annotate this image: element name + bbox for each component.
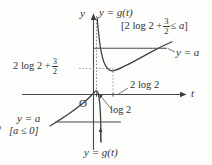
t-tick-label-log2: log 2 (110, 105, 131, 116)
condition-upper-bracket-close: ] (184, 20, 188, 31)
y-tick-denominator: 2 (52, 66, 58, 76)
condition-upper-relation: ≤ a (171, 20, 185, 31)
leader-line-y-a-upper (168, 49, 175, 52)
condition-upper-fraction: 3 2 (163, 17, 169, 35)
leader-line-y-a-lower (57, 110, 75, 121)
line-label-y-a-upper: y = a (176, 47, 199, 58)
origin-label: O (79, 98, 87, 109)
math-figure: y t O y = g(t) y = g(t) y = a y = a [a ≤… (0, 0, 212, 165)
curve-label-bottom: y = g(t) (84, 147, 118, 158)
condition-upper-numerator: 3 (163, 17, 169, 26)
condition-upper: [2 log 2 + 3 2 ≤ a] (121, 17, 188, 35)
page-bleed-artifact: ▪ (0, 121, 2, 134)
y-tick-label: 2 log 2 + 3 2 (13, 57, 59, 75)
t-tick-label-two-log2: 2 log 2 (130, 80, 159, 91)
line-label-y-a-lower: y = a (17, 113, 40, 124)
axis-label-t: t (191, 88, 194, 99)
y-tick-term: 2 log 2 + (13, 60, 51, 71)
y-tick-fraction: 3 2 (52, 57, 58, 75)
axis-label-y: y (80, 8, 85, 19)
condition-upper-denominator: 2 (163, 26, 169, 36)
y-tick-numerator: 3 (52, 57, 58, 66)
condition-upper-term: 2 log 2 + (125, 20, 163, 31)
condition-lower: [a ≤ 0] (9, 126, 39, 137)
